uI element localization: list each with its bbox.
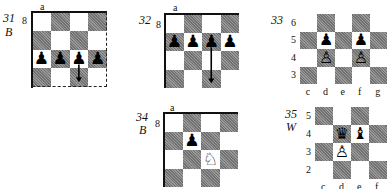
- board-square: [300, 49, 317, 67]
- board-square: [370, 67, 387, 85]
- board-square: ♙: [317, 49, 334, 67]
- white-knight-icon: ♘: [201, 150, 220, 169]
- board-square: [164, 169, 183, 188]
- board-top-edge: [165, 13, 239, 15]
- rank-label-8: 8: [155, 119, 160, 129]
- rank-label-8: 8: [22, 16, 27, 26]
- board-square: [201, 169, 220, 188]
- chess-board: ♛♝♙: [315, 107, 387, 179]
- board-square: ♙: [333, 143, 351, 161]
- board-square: ♟: [352, 32, 369, 50]
- board-square: [351, 161, 369, 179]
- board-square: [220, 132, 239, 151]
- board-square: [183, 150, 202, 169]
- board-square: [369, 161, 387, 179]
- side-to-move-label: B: [139, 124, 146, 136]
- board-top-edge: [164, 112, 238, 114]
- rank-label-4: 4: [291, 53, 296, 63]
- diagram-number: 34: [136, 111, 148, 123]
- move-arrow-icon: [165, 14, 239, 88]
- board-square: [183, 113, 202, 132]
- board-square: [300, 32, 317, 50]
- file-label-e: e: [357, 182, 361, 189]
- chess-board: ♟♟♟♟: [32, 12, 107, 87]
- board-square: [335, 67, 352, 85]
- board-square: [370, 14, 387, 32]
- board-square: [201, 113, 220, 132]
- diagram-number: 35: [285, 108, 297, 120]
- board-square: [333, 161, 351, 179]
- board-square: [183, 169, 202, 188]
- board-square: [351, 143, 369, 161]
- board-square: [315, 161, 333, 179]
- diagram-number: 32: [139, 14, 151, 26]
- board-left-edge: [163, 112, 165, 187]
- black-pawn-icon: ♟: [317, 32, 334, 50]
- move-arrow-icon: [32, 12, 107, 87]
- board-square: [352, 14, 369, 32]
- board-square: [369, 143, 387, 161]
- board-square: [369, 125, 387, 143]
- board-square: [370, 32, 387, 50]
- board-square: [164, 113, 183, 132]
- diagram-35: 35 W ♛♝♙ 5432 cdef: [255, 95, 389, 189]
- board-left-edge: [31, 11, 33, 88]
- side-to-move-label: B: [5, 26, 12, 38]
- rank-label-5: 5: [291, 35, 296, 45]
- board-square: [333, 107, 351, 125]
- board-square: [352, 67, 369, 85]
- board-square: [315, 107, 333, 125]
- board-left-edge: [164, 13, 166, 88]
- board-square: ♟: [317, 32, 334, 50]
- board-square: [300, 14, 317, 32]
- chess-board: ♟♟♟♟: [165, 14, 239, 88]
- file-label-c: c: [321, 182, 325, 189]
- diagram-number: 31: [3, 12, 15, 24]
- black-queen-icon: ♛: [333, 125, 351, 143]
- board-square: [351, 107, 369, 125]
- board-square: [315, 143, 333, 161]
- board-square: [220, 169, 239, 188]
- diagram-34: 34 B a 8 ♟♘: [125, 95, 260, 189]
- board-square: [220, 113, 239, 132]
- board-square: [300, 67, 317, 85]
- board-square: [335, 32, 352, 50]
- diagram-33: 33 ♟♟♙♙ 6543 cdefg: [255, 0, 389, 100]
- board-square: [317, 67, 334, 85]
- rank-label-6: 6: [291, 18, 296, 28]
- board-square: [317, 14, 334, 32]
- white-pawn-icon: ♙: [333, 143, 351, 161]
- black-pawn-icon: ♟: [183, 132, 202, 151]
- chess-board: ♟♟♙♙: [300, 14, 387, 84]
- board-square: [220, 150, 239, 169]
- rank-label-4: 4: [306, 129, 311, 139]
- rank-label-8: 8: [156, 20, 161, 30]
- rank-label-2: 2: [306, 165, 311, 175]
- rank-label-3: 3: [291, 70, 296, 80]
- rank-label-3: 3: [306, 147, 311, 157]
- board-top-edge: [32, 11, 107, 13]
- board-square: [369, 107, 387, 125]
- board-square: [164, 132, 183, 151]
- board-square: [335, 14, 352, 32]
- diagram-32: 32 a 8 ♟♟♟♟: [125, 0, 255, 95]
- board-square: ♝: [351, 125, 369, 143]
- board-square: ♟: [183, 132, 202, 151]
- diagram-31: 31 B a 8 ♟♟♟♟: [0, 0, 125, 95]
- white-pawn-icon: ♙: [317, 49, 334, 67]
- rank-label-5: 5: [306, 111, 311, 121]
- black-pawn-icon: ♟: [352, 32, 369, 50]
- chess-board: ♟♘: [164, 113, 238, 187]
- file-label-a: a: [173, 3, 177, 13]
- board-square: ♙: [352, 49, 369, 67]
- board-square: [370, 49, 387, 67]
- board-square: [201, 132, 220, 151]
- black-bishop-icon: ♝: [351, 125, 369, 143]
- board-square: ♛: [333, 125, 351, 143]
- side-to-move-label: W: [286, 121, 296, 133]
- file-label-f: f: [375, 182, 378, 189]
- file-label-d: d: [339, 182, 344, 189]
- board-square: ♘: [201, 150, 220, 169]
- board-square: [315, 125, 333, 143]
- board-cut-edge-bottom: [32, 86, 107, 87]
